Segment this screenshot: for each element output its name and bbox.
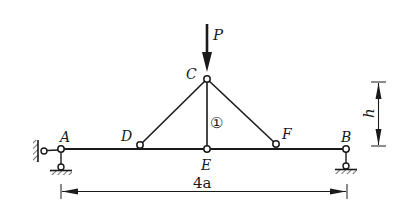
label-c: C xyxy=(186,66,197,82)
truss-diagram: P A B C D E F ① 4a h xyxy=(0,0,411,222)
node-c xyxy=(204,76,210,82)
label-e: E xyxy=(200,157,211,173)
member-label-1: ① xyxy=(210,114,223,132)
load-arrow-p xyxy=(202,24,212,72)
dimension-height-label: h xyxy=(360,108,378,118)
label-d: D xyxy=(120,128,132,144)
node-b xyxy=(343,146,349,152)
support-a xyxy=(33,140,72,175)
bar-cf xyxy=(207,79,276,144)
node-a xyxy=(58,146,64,152)
dimension-span-label: 4a xyxy=(193,174,212,192)
load-label-p: P xyxy=(212,26,224,44)
node-d xyxy=(137,142,143,148)
bar-cd xyxy=(140,79,207,145)
support-b xyxy=(335,152,357,174)
label-f: F xyxy=(281,126,293,142)
label-a: A xyxy=(58,129,70,145)
node-f xyxy=(273,141,279,147)
node-e xyxy=(204,146,210,152)
label-b: B xyxy=(340,129,351,145)
